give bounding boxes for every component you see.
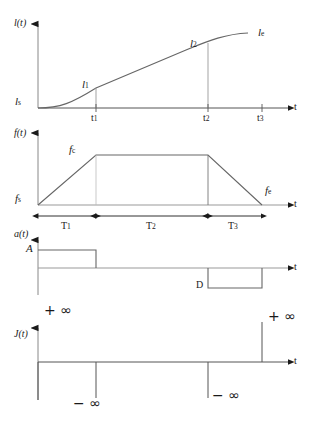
label-l-2: l2 bbox=[190, 38, 197, 49]
velocity-trapezoid bbox=[38, 155, 262, 205]
panel-jerk bbox=[38, 322, 288, 400]
jerk-time-axis-label: t bbox=[294, 356, 297, 366]
acceleration-pulse-D bbox=[208, 268, 262, 288]
label-l-e-sub: e bbox=[261, 29, 264, 38]
position-time-axis-label: t bbox=[294, 102, 297, 112]
label-l-e: le bbox=[258, 27, 264, 38]
label-f-s: fs bbox=[15, 193, 21, 204]
label-T1-sub: 1 bbox=[67, 222, 71, 231]
ticklabel-t3-sub: 3 bbox=[260, 114, 264, 123]
label-f-c: fc bbox=[69, 144, 75, 155]
jerk-label-minus-infinity-right: − ∞ bbox=[212, 388, 240, 402]
label-f-s-sub: s bbox=[18, 195, 21, 204]
panel-velocity bbox=[38, 133, 288, 216]
label-f-e-sub: e bbox=[268, 187, 271, 196]
figure-canvas: l(t) t ls l1 l2 le t1 t2 t3 f(t) t fs fc… bbox=[0, 0, 314, 433]
position-curve bbox=[38, 33, 248, 108]
label-T2-sub: 2 bbox=[152, 222, 156, 231]
panel-position bbox=[38, 24, 288, 112]
label-T3: T3 bbox=[228, 221, 238, 231]
label-l-1: l1 bbox=[82, 79, 89, 90]
label-D: D bbox=[196, 280, 203, 290]
label-l-1-sub: 1 bbox=[85, 81, 89, 90]
label-l-s: ls bbox=[15, 96, 21, 107]
acceleration-axis-label: a(t) bbox=[14, 229, 28, 239]
ticklabel-t1-sub: 1 bbox=[94, 114, 98, 123]
jerk-label-minus-infinity-left: − ∞ bbox=[73, 396, 101, 410]
motion-profile-svg bbox=[0, 0, 314, 433]
ticklabel-t3: t3 bbox=[257, 113, 264, 123]
label-T3-sub: 3 bbox=[234, 222, 238, 231]
label-l-s-sub: s bbox=[18, 98, 21, 107]
acceleration-pulse-A bbox=[38, 250, 96, 268]
position-axis-label: l(t) bbox=[14, 18, 26, 28]
label-l-2-sub: 2 bbox=[193, 40, 197, 49]
label-A: A bbox=[26, 243, 33, 254]
ticklabel-t2: t2 bbox=[203, 113, 210, 123]
label-T1: T1 bbox=[61, 221, 71, 231]
jerk-label-plus-infinity-left: + ∞ bbox=[44, 303, 72, 317]
velocity-time-axis-label: t bbox=[294, 199, 297, 209]
jerk-axis-label: J(t) bbox=[14, 329, 28, 339]
ticklabel-t1: t1 bbox=[91, 113, 98, 123]
label-f-e: fe bbox=[265, 185, 271, 196]
velocity-axis-label: f(t) bbox=[14, 128, 26, 138]
acceleration-time-axis-label: t bbox=[294, 262, 297, 272]
ticklabel-t2-sub: 2 bbox=[206, 114, 210, 123]
label-f-c-sub: c bbox=[72, 146, 75, 155]
panel-acceleration bbox=[38, 240, 288, 295]
label-T2: T2 bbox=[146, 221, 156, 231]
jerk-label-plus-infinity-right: + ∞ bbox=[268, 309, 296, 323]
